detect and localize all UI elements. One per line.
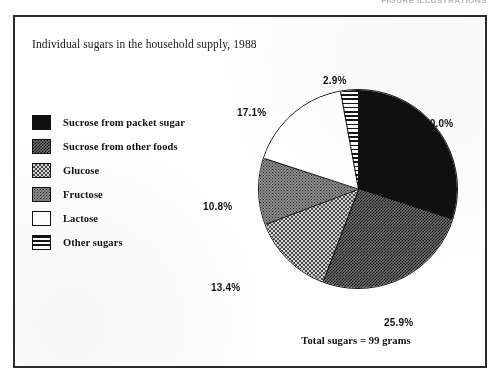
legend-item-label: Sucrose from other foods [63,141,178,152]
legend-item: Sucrose from other foods [32,134,252,158]
legend-swatch-lactose [32,211,51,226]
running-head: FIGURE ILLUSTRATIONS [381,0,487,5]
pie-slice-percent-label: 13.4% [211,282,240,293]
legend-swatch-sucrose-other [32,139,51,154]
total-sugars-note: Total sugars = 99 grams [246,335,466,346]
pie-slice-percent-label: 17.1% [237,107,266,118]
figure-frame: Individual sugars in the household suppl… [13,15,487,368]
legend-item-label: Glucose [63,165,99,176]
figure-title: Individual sugars in the household suppl… [32,37,272,52]
pie-slice-divider [358,90,359,189]
legend-item-label: Sucrose from packet sugar [63,117,185,128]
legend: Sucrose from packet sugarSucrose from ot… [32,110,252,254]
legend-swatch-sucrose-packet [32,115,51,130]
legend-swatch-glucose [32,163,51,178]
pie-slice-percent-label: 25.9% [384,317,413,328]
legend-swatch-fructose [32,187,51,202]
legend-item-label: Lactose [63,213,98,224]
legend-item: Other sugars [32,230,252,254]
legend-item-label: Fructose [63,189,103,200]
pie-slice-percent-label: 2.9% [323,75,347,86]
pie-slice-percent-label: 30.0% [424,118,453,129]
legend-item: Glucose [32,158,252,182]
legend-item: Sucrose from packet sugar [32,110,252,134]
pie-slice-percent-label: 10.8% [203,201,232,212]
legend-swatch-other-sugars [32,235,51,250]
legend-item-label: Other sugars [63,237,123,248]
